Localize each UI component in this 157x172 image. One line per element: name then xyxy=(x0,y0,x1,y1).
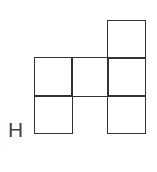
diagram: H xyxy=(0,0,157,172)
label-h: H xyxy=(8,119,23,140)
square-row0-col2 xyxy=(107,20,146,59)
square-row1-col0 xyxy=(34,57,73,97)
square-row2-col2 xyxy=(107,95,146,134)
square-row1-col2 xyxy=(107,57,146,97)
square-row1-col1 xyxy=(71,57,109,97)
square-row2-col0 xyxy=(34,95,73,134)
